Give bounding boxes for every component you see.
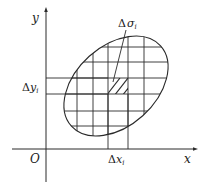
projection-lines <box>46 78 128 149</box>
y-axis-arrow-icon <box>44 7 48 12</box>
delta-sigma-label: Δσi <box>118 17 137 31</box>
delta-x-label: Δxi <box>108 153 124 167</box>
delta-y-label: Δyi <box>22 81 38 95</box>
origin-label: O <box>30 152 40 166</box>
region-boundary <box>45 16 188 156</box>
double-integral-partition-diagram: y x O Δyi Δxi Δσi <box>0 0 209 193</box>
y-axis-label: y <box>31 11 39 25</box>
x-axis-label: x <box>184 152 191 166</box>
x-axis-arrow-icon <box>193 147 198 151</box>
axes <box>12 7 198 182</box>
hatched-cell-delta-sigma <box>106 78 136 96</box>
delta-sigma-leader-line <box>113 30 126 82</box>
